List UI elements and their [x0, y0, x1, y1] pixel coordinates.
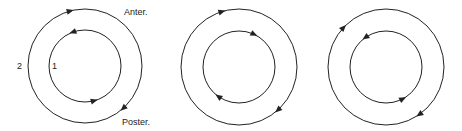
label-inner-circle-number: 1 — [52, 61, 57, 71]
arrowhead-icon — [69, 28, 77, 34]
diagram-canvas: 2 1 Anter. Poster. — [0, 0, 462, 131]
inner-circle — [203, 31, 275, 103]
circular-motion-diagram: 2 1 Anter. Poster. — [0, 0, 462, 131]
label-posterior: Poster. — [122, 117, 150, 127]
arrowhead-icon — [218, 10, 226, 16]
arrowhead-icon — [362, 33, 369, 39]
label-anterior: Anter. — [124, 7, 148, 17]
arrowhead-icon — [215, 94, 222, 100]
inner-circle — [49, 30, 121, 102]
label-outer-circle-number: 2 — [17, 61, 22, 71]
arrowhead-icon — [416, 110, 423, 116]
inner-circle — [350, 31, 422, 103]
arrowhead-icon — [66, 9, 74, 15]
